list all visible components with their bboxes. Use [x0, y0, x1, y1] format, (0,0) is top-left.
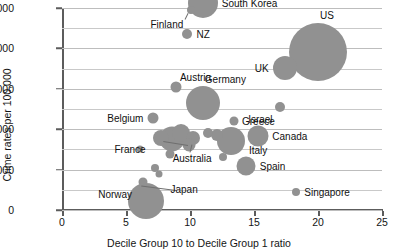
- point-label-australia: Australia: [173, 152, 212, 163]
- gridline-y: [62, 210, 382, 211]
- bubble-point[interactable]: [156, 171, 163, 178]
- bubble-uk[interactable]: [273, 56, 297, 80]
- bubble-singapore[interactable]: [292, 188, 300, 196]
- plot-area: South KoreaFinlandNZUSUKAustriaGermanyIs…: [62, 8, 382, 210]
- bubble-point[interactable]: [219, 153, 227, 161]
- point-label-spain: Spain: [260, 160, 286, 171]
- point-label-greece: Greece: [242, 116, 275, 127]
- bubble-finland[interactable]: [187, 6, 195, 14]
- point-label-south-korea: South Korea: [222, 0, 278, 9]
- point-label-norway: Norway: [98, 188, 132, 199]
- y-axis-tick-mark: [56, 48, 62, 50]
- bubble-austria[interactable]: [170, 82, 181, 93]
- point-label-italy: Italy: [249, 145, 267, 156]
- gridline-y: [62, 89, 382, 90]
- bubble-belgium[interactable]: [147, 113, 158, 124]
- point-label-japan: Japan: [170, 183, 197, 194]
- bubble-us[interactable]: [289, 23, 347, 81]
- point-label-germany: Germany: [205, 73, 246, 84]
- point-label-uk: UK: [255, 63, 269, 74]
- x-axis-tick-label: 10: [184, 216, 196, 228]
- bubble-spain[interactable]: [237, 156, 256, 175]
- bubble-greece[interactable]: [229, 117, 238, 126]
- point-label-finland: Finland: [150, 18, 183, 29]
- point-label-france: France: [114, 143, 145, 154]
- point-label-belgium: Belgium: [107, 113, 143, 124]
- x-axis-title: Decile Group 10 to Decile Group 1 ratio: [0, 237, 398, 249]
- bubble-canada[interactable]: [247, 125, 268, 146]
- point-label-us: US: [320, 10, 334, 21]
- gridline-y: [62, 170, 382, 171]
- bubble-israel[interactable]: [275, 102, 285, 112]
- point-label-singapore: Singapore: [304, 186, 350, 197]
- y-axis-tick-label: 0: [0, 204, 14, 216]
- bubble-chart: Crime rates per 100,000 South KoreaFinla…: [0, 0, 398, 250]
- bubble-germany[interactable]: [186, 86, 220, 120]
- x-axis-tick-label: 25: [376, 216, 388, 228]
- bubble-point[interactable]: [153, 130, 169, 146]
- y-axis-tick-mark: [56, 169, 62, 171]
- y-axis-tick-label: 5,000: [0, 2, 14, 14]
- point-label-nz: NZ: [196, 29, 209, 40]
- bubble-point[interactable]: [203, 128, 213, 138]
- x-axis-tick-label: 5: [123, 216, 129, 228]
- x-axis-tick-label: 20: [312, 216, 324, 228]
- gridline-y: [62, 109, 382, 110]
- y-axis-tick-mark: [56, 128, 62, 130]
- x-axis-tick-label: 15: [248, 216, 260, 228]
- y-axis-tick-label: 1,000: [0, 164, 14, 176]
- y-axis-tick-label: 4,000: [0, 42, 14, 54]
- y-axis-tick-mark: [56, 88, 62, 90]
- x-axis-tick-label: 0: [59, 216, 65, 228]
- y-axis-tick-label: 2,000: [0, 123, 14, 135]
- leader-line: [185, 13, 189, 19]
- y-axis-tick-label: 3,000: [0, 83, 14, 95]
- bubble-nz[interactable]: [182, 29, 192, 39]
- point-label-canada: Canada: [272, 130, 307, 141]
- y-axis-tick-mark: [56, 7, 62, 9]
